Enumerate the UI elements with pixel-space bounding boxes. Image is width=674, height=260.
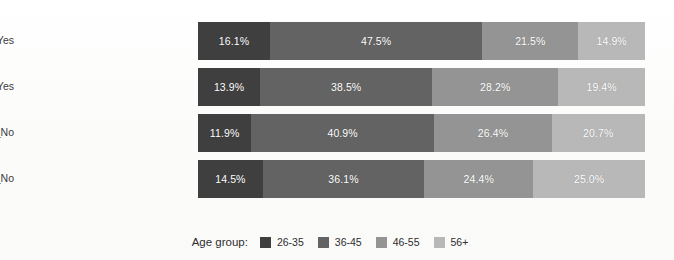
legend-item-56plus[interactable]: 56+ (434, 236, 469, 248)
bar-segment-56plus[interactable]: 20.7% (552, 114, 645, 152)
bar-segment-46-55[interactable]: 26.4% (434, 114, 552, 152)
legend-item-46-55[interactable]: 46-55 (376, 236, 420, 248)
segment-value-label: 28.2% (480, 81, 510, 93)
segment-value-label: 13.9% (214, 81, 244, 93)
category-label-c: C: VR_Yes Remote_No (0, 126, 14, 138)
bar-segment-36-45[interactable]: 47.5% (270, 22, 482, 60)
bar-segment-46-55[interactable]: 24.4% (424, 160, 533, 198)
legend-swatch-icon (434, 237, 445, 248)
segment-value-label: 16.1% (219, 35, 249, 47)
category-label-a: A: VR_Yes Remote_Yes (0, 34, 14, 46)
legend-label: 46-55 (393, 236, 420, 248)
bar-row[interactable]: 11.9%40.9%26.4%20.7% (198, 114, 645, 152)
segment-value-label: 19.4% (586, 81, 616, 93)
legend: Age group: 26-3536-4546-5556+ (0, 230, 674, 254)
legend-item-26-35[interactable]: 26-35 (260, 236, 304, 248)
bar-row[interactable]: 14.5%36.1%24.4%25.0% (198, 160, 645, 198)
segment-value-label: 36.1% (328, 173, 358, 185)
bar-segment-56plus[interactable]: 19.4% (558, 68, 645, 106)
bar-segment-36-45[interactable]: 36.1% (263, 160, 424, 198)
segment-value-label: 21.5% (515, 35, 545, 47)
bar-row[interactable]: 16.1%47.5%21.5%14.9% (198, 22, 645, 60)
segment-value-label: 38.5% (331, 81, 361, 93)
bar-segment-26-35[interactable]: 14.5% (198, 160, 263, 198)
legend-item-36-45[interactable]: 36-45 (318, 236, 362, 248)
bar-segment-26-35[interactable]: 13.9% (198, 68, 260, 106)
legend-label: 56+ (451, 236, 469, 248)
segment-value-label: 20.7% (583, 127, 613, 139)
chart-figure: A: VR_Yes Remote_Yes B: VR_No Remote_Yes… (0, 0, 674, 260)
segment-value-label: 11.9% (210, 127, 240, 139)
legend-label: 26-35 (277, 236, 304, 248)
bar-segment-46-55[interactable]: 28.2% (432, 68, 558, 106)
segment-value-label: 47.5% (361, 35, 391, 47)
legend-swatch-icon (318, 237, 329, 248)
segment-value-label: 25.0% (574, 173, 604, 185)
segment-value-label: 26.4% (478, 127, 508, 139)
category-label-d: D: VR_No Remote_No (0, 172, 14, 184)
legend-label: 36-45 (335, 236, 362, 248)
category-label-b: B: VR_No Remote_Yes (0, 80, 14, 92)
segment-value-label: 24.4% (464, 173, 494, 185)
legend-swatch-icon (376, 237, 387, 248)
bar-segment-26-35[interactable]: 11.9% (198, 114, 251, 152)
segment-value-label: 14.5% (215, 173, 245, 185)
plot-area: 16.1%47.5%21.5%14.9% 13.9%38.5%28.2%19.4… (198, 22, 645, 200)
bar-segment-46-55[interactable]: 21.5% (482, 22, 578, 60)
legend-swatch-icon (260, 237, 271, 248)
legend-title: Age group: (192, 236, 248, 248)
bar-row[interactable]: 13.9%38.5%28.2%19.4% (198, 68, 645, 106)
bar-segment-36-45[interactable]: 40.9% (251, 114, 434, 152)
bar-segment-56plus[interactable]: 25.0% (533, 160, 645, 198)
bar-segment-56plus[interactable]: 14.9% (578, 22, 645, 60)
segment-value-label: 14.9% (597, 35, 627, 47)
segment-value-label: 40.9% (327, 127, 357, 139)
bar-segment-26-35[interactable]: 16.1% (198, 22, 270, 60)
bar-segment-36-45[interactable]: 38.5% (260, 68, 432, 106)
